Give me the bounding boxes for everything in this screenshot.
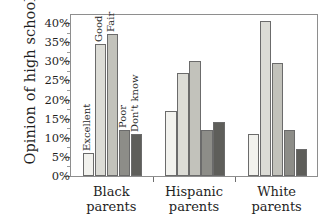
bar-label-good: Good [94, 16, 104, 42]
bar-label-fair: Fair [106, 12, 116, 32]
x-axis-group-label-line: parents [70, 199, 153, 214]
y-axis-tick-label: 20% [8, 93, 70, 107]
bar-fair [272, 63, 283, 176]
x-axis-tick [235, 177, 236, 182]
bar-poor [119, 130, 130, 176]
plot-area: ExcellentGoodFairPoorDon't know [70, 14, 318, 177]
bar-poor [284, 130, 295, 176]
bar-label-poor: Poor [118, 105, 128, 128]
y-axis-tick-label: 10% [8, 131, 70, 145]
y-axis-tick-label: 25% [8, 73, 70, 87]
y-axis-tick-label: 30% [8, 54, 70, 68]
x-axis-group-label-line: Hispanic [153, 184, 236, 199]
x-axis-group-label-line: White [235, 184, 318, 199]
bar-don-t-know [213, 122, 224, 176]
x-axis-group-label: Whiteparents [235, 184, 318, 214]
bar-label-don-t-know: Don't know [130, 74, 140, 132]
y-axis-tick-label: 35% [8, 35, 70, 49]
x-axis-tick [153, 177, 154, 182]
x-axis-group-label-line: Black [70, 184, 153, 199]
bar-excellent [165, 111, 176, 176]
y-axis-tick-label: 5% [8, 150, 70, 164]
bar-good [95, 44, 106, 176]
chart-container: Opinion of high schools 0%5%10%15%20%25%… [0, 0, 333, 218]
y-axis-tick-label: 0% [8, 169, 70, 183]
bars-layer: ExcellentGoodFairPoorDon't know [71, 15, 317, 176]
bar-don-t-know [131, 134, 142, 176]
x-axis-group-label-line: parents [153, 199, 236, 214]
x-axis-group-label: Hispanicparents [153, 184, 236, 214]
x-axis-group-label-line: parents [235, 199, 318, 214]
bar-good [177, 73, 188, 176]
bar-label-excellent: Excellent [82, 104, 92, 151]
y-axis-tick-label: 15% [8, 112, 70, 126]
y-axis-tick-label: 40% [8, 16, 70, 30]
x-axis-group-label: Blackparents [70, 184, 153, 214]
bar-excellent [248, 134, 259, 176]
bar-don-t-know [296, 149, 307, 176]
y-axis: 0%5%10%15%20%25%30%35%40% [0, 0, 70, 218]
bar-excellent [83, 153, 94, 176]
bar-poor [201, 130, 212, 176]
bar-good [260, 21, 271, 176]
bar-fair [189, 61, 200, 176]
